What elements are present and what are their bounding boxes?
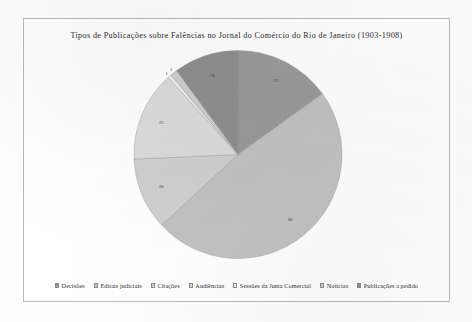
legend-item[interactable]: Citações	[151, 282, 180, 289]
legend-item[interactable]: Editais judiciais	[94, 282, 142, 289]
legend-item[interactable]: Publicações a pedido	[357, 282, 418, 289]
slice-value-label: 27	[273, 78, 278, 83]
legend-item[interactable]: Sessões da Junta Comercial	[233, 282, 311, 289]
legend-item-label: Editais judiciais	[100, 282, 141, 289]
legend-swatch-icon	[189, 283, 193, 287]
pie-slices	[134, 51, 342, 259]
slice-value-label: 86	[288, 217, 293, 222]
legend-swatch-icon	[55, 283, 59, 287]
slice-value-label: 25	[158, 120, 163, 125]
legend-swatch-icon	[94, 283, 98, 287]
legend-item-label: Audiências	[195, 282, 224, 289]
legend-item-label: Citações	[158, 282, 180, 289]
legend-item-label: Publicações a pedido	[364, 282, 418, 289]
slice-value-label: 1	[165, 71, 168, 76]
chart-title: Tipos de Publicações sobre Falências no …	[24, 31, 449, 40]
pie-chart: 278620251218	[132, 49, 343, 260]
legend-swatch-icon	[320, 283, 324, 287]
chart-frame: Tipos de Publicações sobre Falências no …	[23, 18, 450, 302]
legend-item-label: Decisões	[62, 282, 85, 289]
page-canvas: Tipos de Publicações sobre Falências no …	[0, 0, 472, 322]
legend-item-label: Notícias	[327, 282, 348, 289]
legend-item[interactable]: Notícias	[320, 282, 348, 289]
legend-swatch-icon	[151, 283, 155, 287]
slice-value-label: 20	[158, 184, 163, 189]
legend-swatch-icon	[357, 283, 361, 287]
pie-svg: 278620251218	[132, 49, 343, 260]
slice-value-label: 18	[209, 73, 214, 78]
legend-item-label: Sessões da Junta Comercial	[240, 282, 311, 289]
chart-legend: DecisõesEditais judiciaisCitaçõesAudiênc…	[24, 282, 449, 289]
slice-value-label: 2	[169, 67, 172, 72]
legend-item[interactable]: Audiências	[189, 282, 225, 289]
legend-swatch-icon	[233, 283, 237, 287]
plot-area: 278620251218	[24, 49, 451, 264]
legend-item[interactable]: Decisões	[55, 282, 85, 289]
